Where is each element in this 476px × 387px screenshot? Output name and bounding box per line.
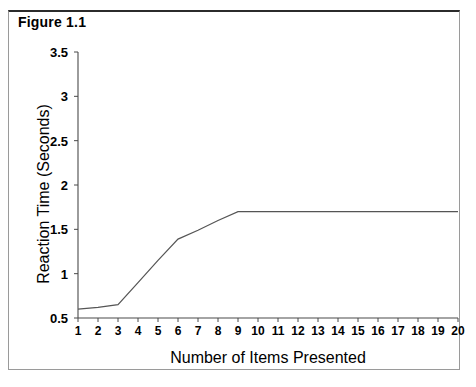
y-tick-label: 2	[28, 178, 68, 193]
y-tick-label: 2.5	[28, 133, 68, 148]
data-series-line	[78, 212, 458, 310]
y-tick-label: 0.5	[28, 311, 68, 326]
tick-marks	[74, 52, 458, 322]
y-tick-label: 1.5	[28, 222, 68, 237]
x-axis-title: Number of Items Presented	[78, 349, 458, 367]
y-tick-label: 1	[28, 266, 68, 281]
chart-plot-area: Reaction Time (Seconds) Number of Items …	[0, 0, 476, 387]
x-tick-label: 20	[445, 324, 471, 338]
axis-lines	[78, 52, 458, 318]
y-tick-label: 3.5	[28, 45, 68, 60]
y-tick-label: 3	[28, 89, 68, 104]
